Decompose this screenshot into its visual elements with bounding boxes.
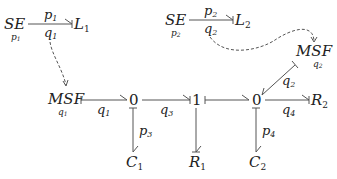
node-msf-q1: MSF q1 [47, 90, 85, 117]
bond-se1-l1: p1 q1 [28, 7, 72, 41]
se2-label: SE [165, 11, 186, 29]
j1-label: 1 [192, 91, 202, 109]
bond-label-q1: q1 [44, 25, 57, 41]
bond-label-q4: q4 [282, 102, 295, 118]
bond-j1-r1 [192, 108, 201, 152]
msf2-sub: q2 [313, 59, 323, 69]
bond-j0a-j1: q3 [142, 95, 190, 118]
signal-q1-to-msf1 [50, 42, 68, 86]
node-c2: C2 [249, 153, 266, 172]
se2-sub: p2 [171, 28, 181, 38]
bond-j0b-r2: q4 [265, 95, 309, 118]
bond-j0b-c2: p4 [252, 108, 275, 152]
junction-1: 1 [192, 91, 202, 109]
bond-label-q2-msf: q2 [282, 73, 295, 89]
j0b-label: 0 [252, 91, 262, 109]
bond-j0a-c1: p3 [129, 108, 152, 152]
junction-0-left: 0 [129, 91, 139, 109]
bond-msf2-j0b: q2 [262, 61, 298, 95]
bond-msf1-j0a: q1 [81, 95, 127, 118]
node-msf-q2: MSF q2 [295, 42, 333, 69]
bond-label-q3: q3 [160, 102, 173, 118]
c1-label: C1 [126, 153, 143, 172]
r2-label: R2 [310, 91, 328, 110]
r1-label: R1 [188, 153, 206, 172]
node-l1: L1 [73, 15, 90, 34]
bond-label-p1: p1 [44, 7, 57, 23]
junction-0-right: 0 [252, 91, 262, 109]
l2-label: L2 [234, 11, 251, 30]
node-r1: R1 [188, 153, 206, 172]
node-l2: L2 [234, 11, 251, 30]
se1-label: SE [4, 15, 25, 33]
node-se-p1: SE p1 [4, 15, 25, 42]
bond-se2-l2: p2 q2 [189, 3, 233, 37]
bond-label-p3: p3 [139, 123, 152, 139]
node-c1: C1 [126, 153, 143, 172]
c2-label: C2 [249, 153, 266, 172]
msf1-sub: q1 [58, 107, 68, 117]
j0a-label: 0 [129, 91, 139, 109]
node-se-p2: SE p2 [165, 11, 186, 38]
msf1-label: MSF [47, 90, 85, 108]
se1-sub: p1 [11, 32, 21, 42]
bond-label-q2: q2 [204, 21, 217, 37]
msf2-label: MSF [295, 42, 333, 60]
bond-label-p2: p2 [204, 3, 217, 19]
bond-label-p4: p4 [262, 123, 275, 139]
bond-graph-diagram: SE p1 p1 q1 L1 SE p2 p2 q2 L2 MSF [0, 0, 337, 179]
bond-j1-j0b [205, 95, 249, 104]
node-r2: R2 [310, 91, 328, 110]
bond-label-q1-mid: q1 [97, 102, 110, 118]
l1-label: L1 [73, 15, 90, 34]
